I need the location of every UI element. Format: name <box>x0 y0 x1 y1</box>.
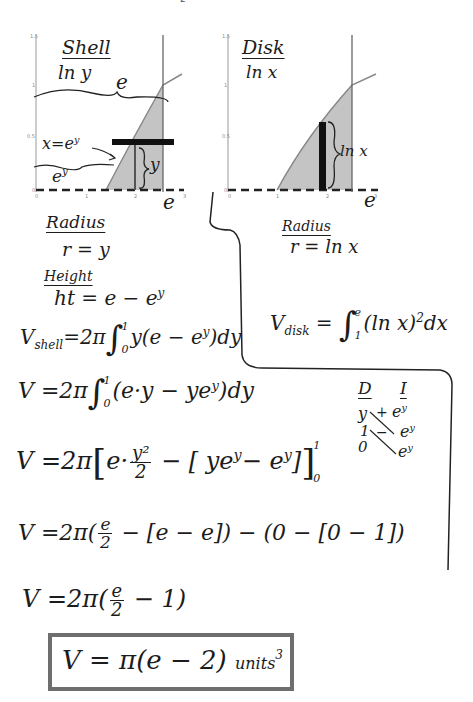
work-line-4: V =2π(e2 − [e − e]) − (0 − [0 − 1]) <box>18 516 405 551</box>
shell-height-heading: Height <box>44 268 93 284</box>
work-line-5: V =2π(e2 − 1) <box>22 582 186 619</box>
disk-radius-heading: Radius <box>282 218 331 234</box>
work-line-1: Vshell=2π∫10y(e − ey)dy <box>20 318 241 358</box>
shell-radius-heading: Radius <box>46 212 105 232</box>
work-line-3: V =2π[e·y²2 − [ yey− ey]]10 <box>16 440 322 484</box>
final-answer-box: V = π(e − 2) units3 <box>48 633 294 691</box>
v-disk-equation: Vdisk = ∫e1(ln x)2dx <box>270 304 448 344</box>
work-line-2: V =2π∫10(e·y − yey)dy <box>18 372 254 412</box>
shell-height-eq: ht = e − ey <box>54 286 164 310</box>
tab-arrows <box>352 378 452 488</box>
tabular-integration: D I y 1 0 + − ey ey ey <box>352 378 452 488</box>
shell-radius-eq: r = y <box>62 238 110 260</box>
disk-radius-eq: r = ln x <box>290 236 358 257</box>
final-answer: V = π(e − 2) units3 <box>62 645 283 675</box>
